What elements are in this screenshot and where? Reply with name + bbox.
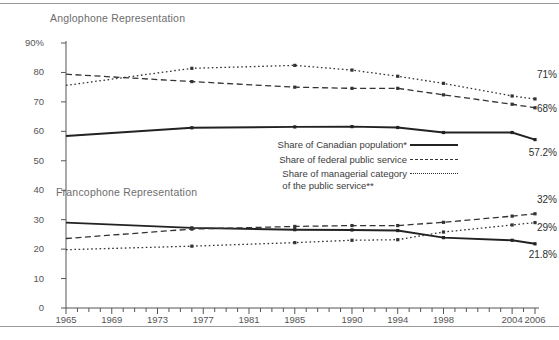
series-point-marker — [190, 80, 193, 83]
series-point-marker — [293, 241, 296, 244]
y-axis-tick-label: 60 — [10, 125, 44, 136]
series-point-marker — [350, 87, 353, 90]
y-axis-tick-label: 20 — [10, 243, 44, 254]
x-axis-tick-label: 2006 — [524, 314, 545, 325]
series-point-marker — [396, 229, 399, 232]
series-point-marker — [350, 68, 353, 71]
x-axis-tick-label: 2004 — [502, 314, 523, 325]
x-axis-tick-label: 1965 — [55, 314, 76, 325]
legend-line-sample-solid — [410, 144, 458, 146]
series-point-marker — [190, 67, 193, 70]
series-point-marker — [293, 125, 296, 128]
y-axis-tick-label: 70 — [10, 96, 44, 107]
legend-item: Share of managerial category of the publ… — [232, 168, 407, 191]
series-end-label-franco-population: 21.8% — [519, 249, 557, 260]
y-axis-tick-label: 80 — [10, 66, 44, 77]
series-point-marker — [190, 245, 193, 248]
series-point-marker — [533, 242, 536, 245]
x-axis-tick-label: 1977 — [193, 314, 214, 325]
x-axis-tick-label: 1985 — [284, 314, 305, 325]
y-axis-tick-label: 30 — [10, 214, 44, 225]
y-axis-tick-label: 50 — [10, 155, 44, 166]
series-point-marker — [442, 230, 445, 233]
x-axis-tick-label: 1990 — [341, 314, 362, 325]
chart-legend: Share of Canadian population* Share of f… — [232, 139, 407, 194]
series-end-label-franco-public-service: 32% — [519, 194, 557, 205]
series-point-marker — [190, 126, 193, 129]
legend-item: Share of federal public service — [232, 154, 407, 166]
legend-item-label: Share of federal public service — [279, 154, 407, 166]
series-point-marker — [396, 224, 399, 227]
series-point-marker — [396, 75, 399, 78]
series-point-marker — [533, 138, 536, 141]
series-point-marker — [442, 221, 445, 224]
y-axis-tick-label: 40 — [10, 184, 44, 195]
series-line-1 — [66, 74, 535, 108]
series-point-marker — [293, 64, 296, 67]
series-point-marker — [511, 131, 514, 134]
series-point-marker — [511, 94, 514, 97]
series-point-marker — [396, 87, 399, 90]
series-point-marker — [350, 239, 353, 242]
legend-line-sample-dotted — [410, 173, 458, 174]
series-line-2 — [66, 65, 535, 99]
series-point-marker — [442, 131, 445, 134]
y-axis-tick-label: 10 — [10, 273, 44, 284]
series-point-marker — [293, 225, 296, 228]
x-axis-tick-label: 1981 — [238, 314, 259, 325]
legend-line-sample-dashed — [410, 159, 458, 160]
series-end-label-anglo-population: 57.2% — [519, 147, 557, 158]
series-point-marker — [442, 82, 445, 85]
x-axis-tick-label: 1969 — [101, 314, 122, 325]
series-line-0 — [66, 127, 535, 140]
series-end-label-anglo-managerial: 71% — [519, 69, 557, 80]
series-point-marker — [396, 126, 399, 129]
legend-item-label: Share of Canadian population* — [278, 139, 407, 151]
series-point-marker — [511, 215, 514, 218]
legend-item-label: Share of managerial category of the publ… — [282, 168, 407, 191]
series-point-marker — [511, 239, 514, 242]
series-line-5 — [66, 223, 535, 250]
chart-figure: Anglophone Representation Francophone Re… — [0, 0, 559, 340]
series-point-marker — [511, 223, 514, 226]
x-axis-tick-label: 1973 — [147, 314, 168, 325]
series-point-marker — [190, 227, 193, 230]
y-axis-tick-label: 0 — [10, 302, 44, 313]
series-point-marker — [442, 236, 445, 239]
x-axis-tick-label: 1994 — [387, 314, 408, 325]
series-point-marker — [293, 86, 296, 89]
series-point-marker — [533, 97, 536, 100]
legend-item: Share of Canadian population* — [232, 139, 407, 151]
series-point-marker — [396, 238, 399, 241]
series-point-marker — [350, 125, 353, 128]
series-point-marker — [350, 228, 353, 231]
series-end-label-franco-managerial: 29% — [519, 222, 557, 233]
y-axis-tick-label: 90% — [10, 37, 44, 48]
series-point-marker — [350, 224, 353, 227]
series-point-marker — [293, 228, 296, 231]
series-end-label-anglo-public-service: 68% — [519, 103, 557, 114]
x-axis-tick-label: 1998 — [433, 314, 454, 325]
series-point-marker — [511, 103, 514, 106]
series-point-marker — [442, 93, 445, 96]
series-point-marker — [533, 212, 536, 215]
